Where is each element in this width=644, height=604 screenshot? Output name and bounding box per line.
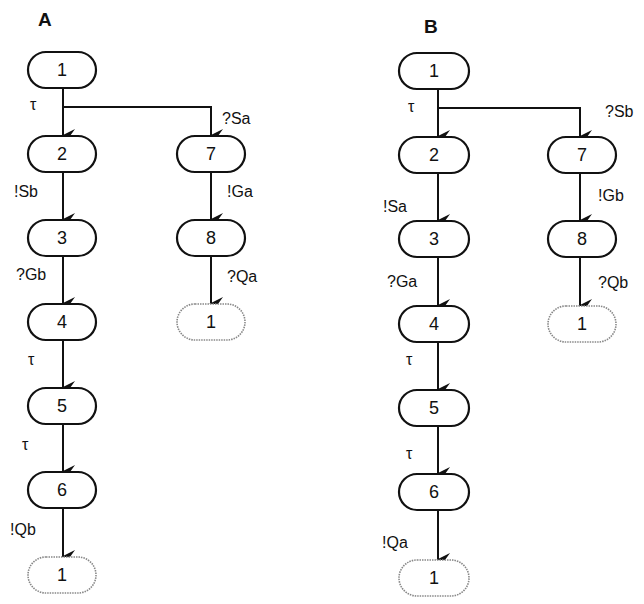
panel-a: A 1 2 3 4 5 6 1 7 8 1 τ ?Sa !Sb ?Gb τ τ … (10, 9, 257, 593)
state-node-4: 4 (28, 304, 96, 340)
state-node-6: 6 (399, 474, 469, 510)
svg-text:1: 1 (57, 60, 67, 80)
edge-label-7-8: !Ga (227, 183, 253, 200)
edge-label-4-5: τ (406, 351, 413, 368)
edge-label-8-1: ?Qa (227, 268, 257, 285)
state-node-7: 7 (548, 137, 616, 173)
state-diagram: A 1 2 3 4 5 6 1 7 8 1 τ ?Sa !Sb ?Gb τ τ … (0, 0, 644, 604)
svg-text:3: 3 (429, 229, 439, 249)
svg-text:3: 3 (57, 228, 67, 248)
state-node-6: 6 (28, 472, 96, 508)
state-node-1-return-branch: 1 (177, 304, 245, 340)
svg-text:2: 2 (57, 144, 67, 164)
state-node-3: 3 (399, 221, 469, 257)
svg-text:4: 4 (57, 312, 67, 332)
edge-label-8-1: ?Qb (598, 274, 628, 291)
svg-text:1: 1 (57, 565, 67, 585)
state-node-1-return: 1 (28, 557, 96, 593)
svg-text:1: 1 (429, 568, 439, 588)
edge-label-3-4: ?Ga (387, 273, 417, 290)
edge-label-6-1: !Qa (382, 534, 408, 551)
svg-text:1: 1 (429, 61, 439, 81)
state-node-4: 4 (399, 306, 469, 342)
svg-text:6: 6 (429, 482, 439, 502)
svg-text:7: 7 (206, 144, 216, 164)
state-node-2: 2 (399, 137, 469, 173)
edge-label-6-1: !Qb (10, 521, 36, 538)
state-node-7: 7 (177, 136, 245, 172)
edge-label-3-4: ?Gb (16, 266, 46, 283)
state-node-5: 5 (399, 390, 469, 426)
edge-label-1-7: ?Sb (605, 103, 634, 120)
svg-text:8: 8 (577, 229, 587, 249)
svg-text:1: 1 (206, 312, 216, 332)
svg-text:7: 7 (577, 145, 587, 165)
edge-label-1-2: τ (30, 96, 37, 113)
state-node-1: 1 (399, 53, 469, 89)
svg-text:6: 6 (57, 480, 67, 500)
edge-label-4-5: τ (28, 351, 35, 368)
edge-label-2-3: !Sa (383, 198, 407, 215)
state-node-1-return: 1 (399, 560, 469, 596)
svg-text:5: 5 (429, 398, 439, 418)
svg-text:2: 2 (429, 145, 439, 165)
state-node-1: 1 (28, 52, 96, 88)
svg-text:1: 1 (577, 314, 587, 334)
svg-text:8: 8 (206, 228, 216, 248)
panel-title: A (38, 9, 52, 30)
state-node-1-return-branch: 1 (548, 306, 616, 342)
state-node-5: 5 (28, 388, 96, 424)
edge-label-2-3: !Sb (14, 183, 38, 200)
state-node-8: 8 (548, 221, 616, 257)
state-node-2: 2 (28, 136, 96, 172)
edge-1-7 (63, 107, 211, 136)
panel-b: B 1 2 3 4 5 6 1 7 8 1 τ ?Sb !Sa ?Ga τ τ … (382, 16, 634, 596)
state-node-8: 8 (177, 220, 245, 256)
svg-text:5: 5 (57, 396, 67, 416)
edge-label-5-6: τ (406, 445, 413, 462)
edge-label-1-7: ?Sa (222, 110, 251, 127)
edge-label-5-6: τ (22, 436, 29, 453)
state-node-3: 3 (28, 220, 96, 256)
edge-1-7 (438, 108, 580, 137)
svg-text:4: 4 (429, 314, 439, 334)
edge-label-7-8: !Gb (598, 187, 624, 204)
edge-label-1-2: τ (408, 98, 415, 115)
panel-title: B (424, 16, 438, 37)
